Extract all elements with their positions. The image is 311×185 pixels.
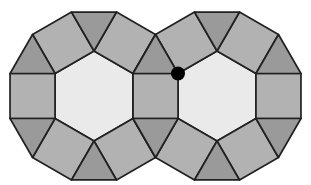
tiling-figure [0,0,311,185]
square-face-right-0 [256,74,301,119]
vertex-dot [171,67,185,81]
tiling-svg [0,0,311,185]
square-face-left-3 [10,74,55,119]
square-face-right-3 [133,74,178,119]
